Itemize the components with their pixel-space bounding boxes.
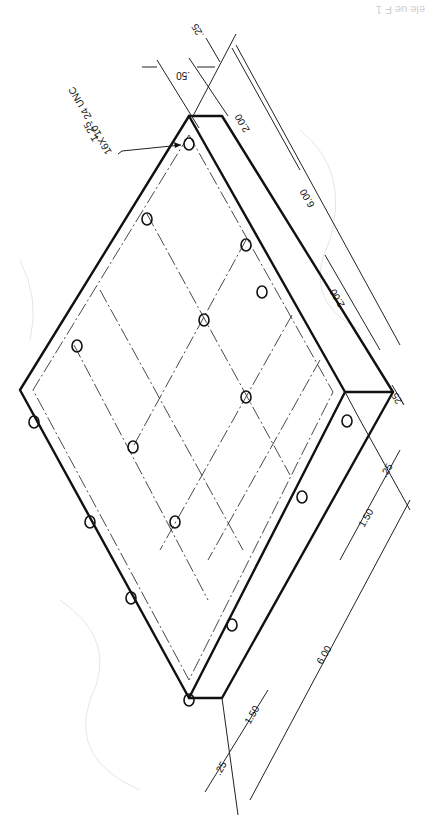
dim-right-spacing-a: 2.00: [232, 112, 251, 135]
hole-6: [257, 286, 267, 298]
dim-right-overall: 6.00: [297, 187, 316, 210]
hole-5: [199, 314, 209, 326]
plate-top-face: [20, 116, 345, 698]
corner-fragment-text: ele ue F 1: [376, 4, 425, 16]
drawing-canvas: ele ue F 1: [0, 0, 431, 832]
dim-bottom-edge-offset-b: .25: [212, 759, 229, 777]
hole-15: [227, 619, 237, 631]
dim-top-edge-offset: .25: [189, 22, 206, 40]
top-dimensions: .50 .25 2.00 6.00: [142, 22, 400, 345]
hole-10: [342, 415, 352, 427]
dim-bottom-overall: 6.00: [314, 643, 333, 666]
hole-pattern: [29, 138, 352, 706]
dim-top-hole-offset: .50: [176, 70, 190, 81]
dim-bottom-spacing-b: 1.50: [242, 703, 261, 726]
hole-8: [128, 441, 138, 453]
dim-bottom-spacing-a: 1.50: [356, 506, 375, 529]
hole-1: [184, 138, 194, 150]
right-dimensions: 2.00 .25: [325, 255, 406, 409]
hole-13: [297, 491, 307, 503]
bottom-right-dimensions: .25 1.50 6.00: [250, 420, 410, 800]
hole-12: [170, 516, 180, 528]
thread-callout: 16X 10 - 24 UNC ↧.25: [66, 85, 181, 156]
plate-side-faces: [189, 116, 393, 698]
bottom-dimensions: 1.50 .25: [205, 690, 268, 815]
technical-drawing: 16X 10 - 24 UNC ↧.25 .50 .25 2.00 6.00 2…: [0, 0, 431, 832]
hole-center-lines: [33, 135, 333, 680]
